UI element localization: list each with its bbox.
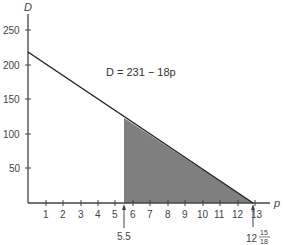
x-tick-12: 12	[232, 209, 244, 220]
y-tick-50: 50	[9, 163, 21, 174]
x-tick-5: 5	[112, 209, 118, 220]
x-tick-10: 10	[197, 209, 209, 220]
y-tick-100: 100	[3, 129, 20, 140]
x-tick-2: 2	[60, 209, 66, 220]
x-tick-4: 4	[95, 209, 101, 220]
equation-label: D = 231 − 18p	[106, 66, 176, 78]
marker-numerator: 15	[260, 229, 268, 236]
x-tick-9: 9	[182, 209, 188, 220]
y-ticks: 250 200 150 100 50	[3, 25, 31, 174]
y-axis-label: D	[24, 1, 32, 13]
y-tick-200: 200	[3, 60, 20, 71]
x-axis-label: p	[273, 197, 280, 209]
x-tick-7: 7	[147, 209, 153, 220]
demand-chart: D p 250 200 150 100 50 1 2 3 4 5 6 7 8 9…	[0, 0, 286, 245]
marker-denominator: 18	[260, 238, 268, 245]
x-tick-11: 11	[214, 209, 225, 220]
marker-whole: 12	[246, 233, 258, 244]
x-tick-3: 3	[78, 209, 84, 220]
x-tick-1: 1	[43, 209, 49, 220]
marker-5-5-label: 5.5	[117, 231, 131, 242]
x-tick-6: 6	[130, 209, 136, 220]
y-tick-250: 250	[3, 25, 20, 36]
y-tick-150: 150	[3, 94, 20, 105]
x-tick-8: 8	[165, 209, 171, 220]
